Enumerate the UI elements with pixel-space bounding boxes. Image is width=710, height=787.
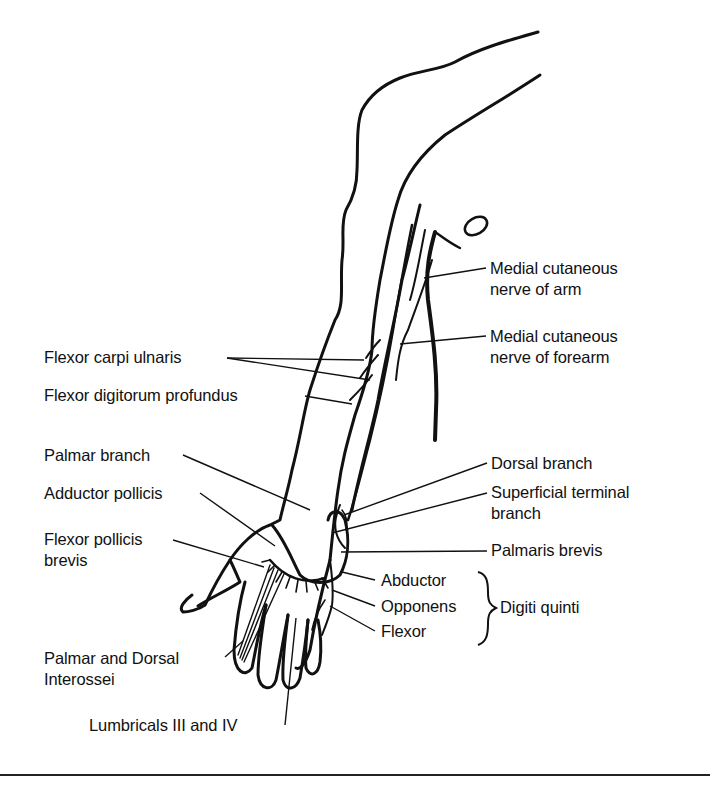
label-medial-cutaneous-arm-2: nerve of arm	[490, 280, 581, 299]
leader-medial-cutaneous-forearm	[400, 336, 486, 344]
label-dorsal-branch: Dorsal branch	[491, 454, 592, 473]
axilla-mark	[462, 213, 491, 239]
label-flexor-digitorum-profundus: Flexor digitorum profundus	[44, 386, 238, 405]
label-flexor-pollicis-brevis-1: Flexor pollicis	[44, 530, 142, 549]
label-interossei-1: Palmar and Dorsal	[44, 649, 179, 668]
figure-bottom-rule	[0, 774, 710, 776]
label-flexor-carpi-ulnaris: Flexor carpi ulnaris	[44, 348, 181, 367]
label-lumbricals: Lumbricals III and IV	[89, 716, 237, 735]
leader-opponens	[332, 590, 375, 606]
leader-flexor	[330, 606, 375, 631]
label-opponens: Opponens	[381, 597, 456, 616]
ulnar-nerve-parallel	[348, 225, 412, 520]
label-medial-cutaneous-arm-1: Medial cutaneous	[490, 259, 618, 278]
label-abductor: Abductor	[381, 571, 446, 590]
leader-fcu-2	[227, 358, 370, 380]
leader-fdp	[305, 396, 352, 404]
label-adductor-pollicis: Adductor pollicis	[44, 484, 162, 503]
leader-flexor-pollicis-brevis	[173, 540, 264, 567]
digiti-quinti-brace	[478, 572, 496, 645]
thumb-outline	[198, 560, 240, 606]
label-flexor-pollicis-brevis-2: brevis	[44, 551, 87, 570]
arm-outer-contour	[181, 32, 538, 612]
axilla-fold	[435, 232, 460, 248]
label-palmar-branch: Palmar branch	[44, 446, 150, 465]
leader-abductor	[342, 572, 375, 580]
label-superficial-terminal-1: Superficial terminal	[491, 483, 629, 502]
label-medial-cutaneous-forearm-1: Medial cutaneous	[490, 327, 618, 346]
leader-palmaris-brevis	[341, 551, 487, 552]
label-digiti-quinti: Digiti quinti	[500, 598, 579, 617]
label-palmaris-brevis: Palmaris brevis	[491, 541, 602, 560]
label-superficial-terminal-2: branch	[491, 504, 541, 523]
leader-palmar-branch	[183, 455, 310, 510]
label-flexor: Flexor	[381, 622, 426, 641]
label-interossei-2: Interossei	[44, 670, 115, 689]
leader-fcu-1	[227, 358, 364, 360]
leader-adductor-pollicis	[200, 493, 275, 546]
leader-dorsal-branch	[344, 463, 487, 515]
leader-medial-cutaneous-arm	[424, 268, 486, 278]
label-medial-cutaneous-forearm-2: nerve of forearm	[490, 348, 609, 367]
fcu-branch-2	[360, 355, 378, 378]
